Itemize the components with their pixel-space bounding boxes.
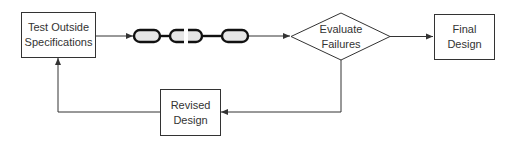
test-label: Test OutsideSpecifications — [21, 12, 96, 58]
arrow-revised-to-test — [58, 58, 160, 112]
arrow-evaluate-to-revised — [221, 60, 341, 112]
revised-label: RevisedDesign — [160, 89, 221, 136]
evaluate-label: EvaluateFailures — [291, 13, 391, 60]
chain-icon — [134, 30, 248, 42]
final-label: FinalDesign — [434, 14, 495, 60]
